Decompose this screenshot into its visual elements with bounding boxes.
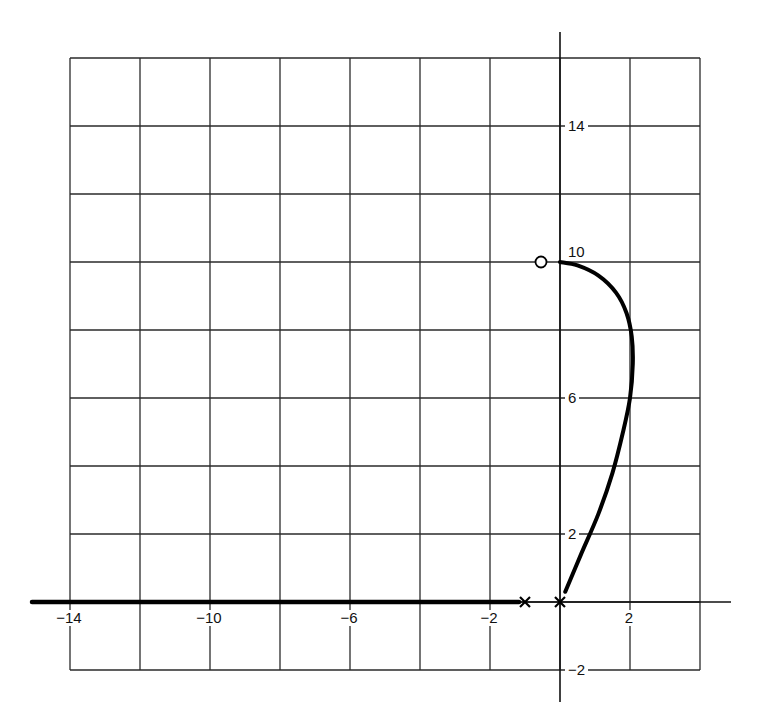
grid bbox=[70, 58, 700, 670]
y-tick-label: −2 bbox=[565, 662, 588, 678]
x-tick-label: 2 bbox=[622, 610, 636, 626]
y-tick-label: 2 bbox=[565, 526, 579, 542]
locus-branches bbox=[32, 262, 633, 602]
x-tick-label: −6 bbox=[337, 610, 360, 626]
zero-o-marker bbox=[536, 257, 547, 268]
root-locus-plot bbox=[0, 0, 763, 726]
y-tick-label: 10 bbox=[565, 244, 588, 260]
pole-zero-markers bbox=[520, 257, 565, 608]
x-tick-label: −14 bbox=[53, 610, 84, 626]
x-tick-label: −2 bbox=[477, 610, 500, 626]
complex-branch-locus bbox=[560, 262, 633, 592]
x-tick-label: −10 bbox=[193, 610, 224, 626]
y-tick-label: 14 bbox=[565, 118, 588, 134]
y-tick-label: 6 bbox=[565, 390, 579, 406]
